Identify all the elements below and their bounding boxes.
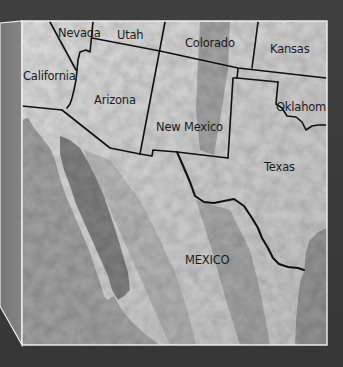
label-new-mexico: New Mexico	[156, 120, 223, 134]
relief-map: NevadaUtahColoradoKansasCaliforniaArizon…	[0, 0, 343, 367]
map-figure: NevadaUtahColoradoKansasCaliforniaArizon…	[0, 0, 343, 367]
label-mexico: MEXICO	[185, 253, 229, 267]
label-utah: Utah	[117, 28, 143, 42]
label-colorado: Colorado	[185, 36, 235, 50]
map-surface: NevadaUtahColoradoKansasCaliforniaArizon…	[22, 21, 333, 345]
label-arizona: Arizona	[94, 93, 136, 107]
label-oklahoma: Oklahoma	[276, 100, 333, 114]
label-nevada: Nevada	[58, 26, 101, 40]
side-panel	[0, 21, 22, 345]
label-texas: Texas	[263, 160, 295, 174]
label-kansas: Kansas	[270, 42, 310, 56]
label-california: California	[23, 69, 76, 83]
